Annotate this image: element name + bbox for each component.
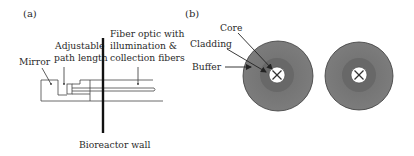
figure-canvas: (a) Mirror Adjustable path length Fiber … [0,0,414,156]
probe-tip [67,84,72,94]
mirror-label: Mirror [19,56,51,67]
fiber-label-line2: illumination & [110,40,177,51]
fiber-sleeve [72,80,153,84]
mirror-pointer [42,68,51,84]
panel-b-label: (b) [185,8,199,19]
panel-a: (a) Mirror Adjustable path length Fiber … [19,8,185,150]
panel-a-label: (a) [23,8,37,19]
mirror-block [41,80,67,95]
core-label: Core [220,22,242,33]
adjustable-label-line1: Adjustable [54,40,104,51]
bioreactor-wall-label: Bioreactor wall [79,139,150,150]
fiber-cross-section-1 [243,41,313,111]
buffer-label: Buffer [192,61,222,72]
cladding-label: Cladding [190,38,232,49]
fiber-label-line3: collection fibers [110,52,185,63]
panel-b: (b) Core Cladding Buffer [185,8,393,111]
fiber-cross-section-2 [325,42,393,110]
fiber-label-line1: Fiber optic with [110,28,185,39]
fiber-rod [72,88,155,91]
adjustable-label-line2: path length [54,52,108,63]
